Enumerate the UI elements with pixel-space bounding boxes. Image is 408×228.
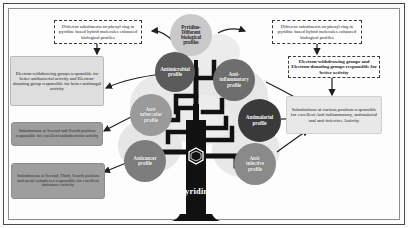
node-anti-infective[interactable]: Anti- infective profile — [234, 143, 276, 185]
annotation-top-left-text: Different substituents on phenyl ring in… — [57, 24, 139, 39]
annotation-right-substitution-note: Substitutions at various position respon… — [286, 96, 382, 134]
node-anti-tubercular[interactable]: Anti- tubercular profile — [130, 94, 172, 136]
node-antimalarial[interactable]: Antimalarial profile — [238, 99, 281, 142]
node-anti-inflammatory[interactable]: Anti- inflammatory profile — [213, 59, 255, 101]
node-center[interactable]: Pyridine- Different biological profiles — [170, 14, 212, 56]
annotation-right-ewg-edg-note: Electron-withdrawing groups and Electron… — [288, 56, 380, 78]
annotation-left-antitubercular-note: Substitutions at Second and Fourth posit… — [11, 122, 103, 146]
node-anti-inflammatory-label: Anti- inflammatory profile — [219, 72, 248, 88]
annotation-top-right-note: Different substituents on phenyl ring in… — [272, 20, 362, 44]
trunk-label: Pyridine — [172, 186, 220, 196]
node-antimicrobial[interactable]: Antimicrobial profile — [155, 52, 195, 92]
figure-canvas: Pyridine- Different biological profiles … — [0, 0, 408, 228]
node-antimalarial-label: Antimalarial profile — [246, 115, 273, 126]
annotation-top-right-text: Different substituents on phenyl ring in… — [275, 24, 359, 39]
annotation-left-ewg-edg-text: Electron-withdrawing groups responsible … — [13, 71, 101, 92]
node-anti-infective-label: Anti- infective profile — [246, 156, 264, 172]
annotation-left-anticancer-text: Substitutions at Second, Third, Fourth p… — [14, 174, 102, 189]
node-anti-tubercular-label: Anti- tubercular profile — [140, 107, 163, 123]
annotation-left-anticancer-note: Substitutions at Second, Third, Fourth p… — [11, 163, 105, 199]
node-anticancer-label: Anticancer profile — [133, 156, 157, 167]
node-antimicrobial-label: Antimicrobial profile — [160, 67, 190, 78]
annotation-top-left-note: Different substituents on phenyl ring in… — [54, 20, 142, 44]
node-anticancer[interactable]: Anticancer profile — [124, 140, 166, 182]
annotation-right-substitution-text: Substitutions at various position respon… — [289, 107, 379, 123]
annotation-left-antitubercular-text: Substitutions at Second and Fourth posit… — [14, 129, 100, 139]
node-center-label: Pyridine- Different biological profiles — [181, 25, 201, 46]
annotation-left-ewg-edg-note: Electron-withdrawing groups responsible … — [10, 56, 104, 106]
annotation-right-ewg-edg-text: Electron-withdrawing groups and Electron… — [291, 59, 377, 75]
